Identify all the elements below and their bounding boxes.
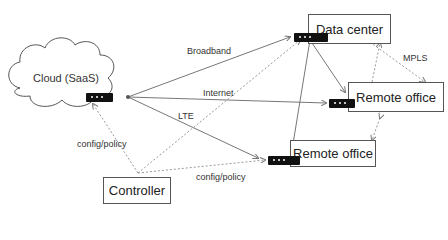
config-policy-label-2: config/policy [196, 172, 246, 182]
remote-office-2-device [268, 156, 300, 165]
config-policy-label-1: config/policy [77, 139, 127, 149]
cloud-label: Cloud (SaaS) [33, 72, 99, 84]
internet-label: Internet [203, 88, 234, 98]
data-center-device [294, 33, 328, 42]
controller-node: Controller [103, 177, 171, 204]
broadband-label: Broadband [187, 46, 231, 56]
cloud-edge-device [86, 93, 113, 102]
remote-office-2-node: Remote office [290, 140, 376, 167]
lte-label: LTE [178, 111, 194, 121]
remote-office-1-device [329, 99, 355, 108]
mpls-label: MPLS [403, 53, 428, 63]
remote-office-1-node: Remote office [348, 82, 444, 112]
